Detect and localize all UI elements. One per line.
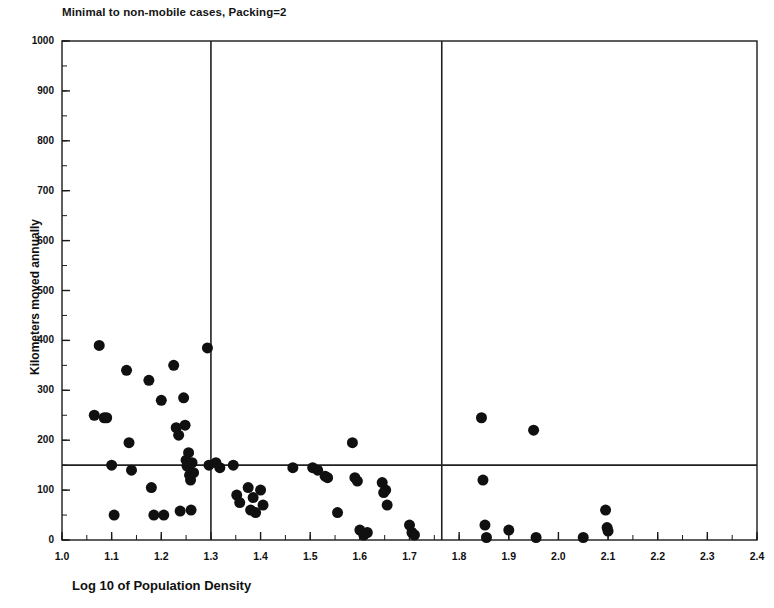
x-tick-label: 1.0	[42, 550, 82, 562]
data-point	[322, 472, 333, 483]
data-point	[89, 410, 100, 421]
data-point	[228, 460, 239, 471]
data-point	[126, 465, 137, 476]
x-tick-label: 2.0	[538, 550, 578, 562]
data-point	[180, 420, 191, 431]
data-point	[479, 520, 490, 531]
data-point	[409, 530, 420, 541]
data-point	[603, 526, 614, 537]
x-tick-label: 2.1	[588, 550, 628, 562]
data-point	[347, 437, 358, 448]
x-tick-label: 1.1	[92, 550, 132, 562]
y-tick-label: 400	[8, 334, 54, 345]
x-tick-label: 2.3	[687, 550, 727, 562]
y-tick-label: 200	[8, 434, 54, 445]
x-tick-label: 1.6	[340, 550, 380, 562]
x-tick-label: 1.9	[489, 550, 529, 562]
x-tick-label: 1.4	[241, 550, 281, 562]
y-tick-label: 500	[8, 285, 54, 296]
data-point	[382, 500, 393, 511]
data-point	[362, 527, 373, 538]
data-point	[287, 462, 298, 473]
data-point	[106, 460, 117, 471]
y-tick-label: 0	[8, 534, 54, 545]
data-point	[124, 437, 135, 448]
data-point	[481, 532, 492, 543]
data-point	[101, 412, 112, 423]
x-tick-label: 1.3	[191, 550, 231, 562]
data-point	[503, 525, 514, 536]
x-tick-label: 1.7	[390, 550, 430, 562]
x-tick-label: 1.5	[290, 550, 330, 562]
data-point	[188, 467, 199, 478]
data-point	[243, 482, 254, 493]
data-point	[121, 365, 132, 376]
data-point	[109, 510, 120, 521]
data-point	[234, 497, 245, 508]
y-tick-label: 300	[8, 384, 54, 395]
y-tick-label: 100	[8, 484, 54, 495]
data-point	[187, 457, 198, 468]
data-point	[255, 485, 266, 496]
x-tick-label: 1.8	[439, 550, 479, 562]
x-tick-label: 2.4	[737, 550, 774, 562]
data-point	[173, 430, 184, 441]
data-point	[258, 500, 269, 511]
data-point	[156, 395, 167, 406]
y-tick-label: 900	[8, 85, 54, 96]
y-tick-label: 600	[8, 235, 54, 246]
data-point	[186, 505, 197, 516]
data-point	[202, 342, 213, 353]
data-point	[380, 485, 391, 496]
data-point	[143, 375, 154, 386]
data-point	[175, 506, 186, 517]
y-tick-label: 1000	[8, 35, 54, 46]
data-point	[531, 532, 542, 543]
data-point	[578, 532, 589, 543]
data-point	[214, 462, 225, 473]
data-point	[94, 340, 105, 351]
scatter-plot-figure: Minimal to non-mobile cases, Packing=2 K…	[0, 0, 774, 608]
data-point	[146, 482, 157, 493]
data-point	[178, 392, 189, 403]
data-point	[332, 507, 343, 518]
data-point	[476, 412, 487, 423]
data-point	[352, 476, 363, 487]
x-tick-label: 1.2	[141, 550, 181, 562]
data-point	[168, 360, 179, 371]
data-point	[158, 510, 169, 521]
data-point	[528, 425, 539, 436]
y-tick-label: 700	[8, 185, 54, 196]
data-point	[183, 447, 194, 458]
data-point	[148, 510, 159, 521]
plot-canvas	[0, 0, 774, 608]
data-point	[477, 475, 488, 486]
y-tick-label: 800	[8, 135, 54, 146]
data-point	[600, 505, 611, 516]
x-tick-label: 2.2	[638, 550, 678, 562]
